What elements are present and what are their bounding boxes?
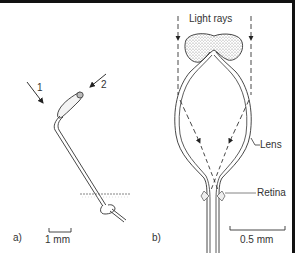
diagram-artwork xyxy=(0,0,302,253)
panel-b-label: b) xyxy=(152,233,161,243)
scale-bar-a-label: 1 mm xyxy=(45,235,70,245)
retina-label: Retina xyxy=(257,188,286,198)
ocellus-figure: 1 2 a) 1 mm Light rays Lens Retina b) 0.… xyxy=(0,0,302,253)
lens-cap xyxy=(185,34,243,63)
panel-a-label: a) xyxy=(13,233,22,243)
lens-leader xyxy=(251,138,260,145)
light-rays-label: Light rays xyxy=(189,14,232,24)
lens-label: Lens xyxy=(260,140,282,150)
scale-bar-a xyxy=(49,228,71,232)
panel-b-drawing xyxy=(175,16,285,253)
ocellus-cap xyxy=(77,92,83,98)
scale-bar-b xyxy=(230,226,285,230)
arrow-1-label: 1 xyxy=(37,83,43,93)
panel-a-drawing xyxy=(27,74,130,232)
scale-bar-b-label: 0.5 mm xyxy=(240,235,273,245)
arrow-2-label: 2 xyxy=(101,80,107,90)
